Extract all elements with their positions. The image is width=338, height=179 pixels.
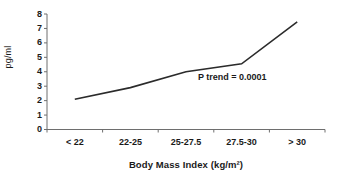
x-axis-tick-label: 22-25 bbox=[103, 138, 159, 147]
x-axis-tick-label: 27.5-30 bbox=[214, 138, 270, 147]
x-axis-tick-label: > 30 bbox=[269, 138, 325, 147]
p-trend-annotation: P trend = 0.0001 bbox=[198, 72, 267, 82]
x-axis-tick-label: 25-27.5 bbox=[158, 138, 214, 147]
chart-figure: pg/ml 012345678 < 2222-2525-27.527.5-30>… bbox=[0, 0, 338, 179]
data-series-line bbox=[75, 22, 297, 99]
x-axis-tick-label: < 22 bbox=[47, 138, 103, 147]
x-axis-title: Body Mass Index (kg/m²) bbox=[47, 159, 325, 170]
plot-area bbox=[0, 0, 338, 179]
